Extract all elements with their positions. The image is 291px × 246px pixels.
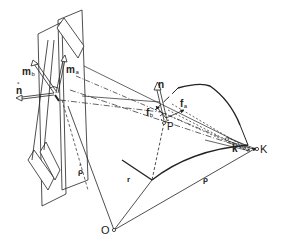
vector-rho-ring — [68, 106, 114, 230]
label-P: P — [167, 122, 174, 132]
label-n: n — [158, 80, 164, 90]
label-f-a-sub: a — [184, 103, 187, 109]
projection-rays — [60, 66, 250, 152]
label-k: k — [232, 144, 238, 154]
label-m-b-sub: b — [31, 71, 34, 77]
label-n-ring-accent: ° — [17, 81, 19, 87]
vector-r — [114, 180, 152, 230]
label-rho-ring: °ρ — [78, 168, 83, 176]
label-m-a-sub: a — [75, 69, 78, 75]
position-vectors — [68, 106, 256, 230]
label-f-b: fb — [146, 108, 153, 118]
label-f-a-base: f — [180, 98, 183, 109]
image-plane — [28, 10, 88, 206]
label-r: r — [127, 176, 130, 184]
dashed-line-P-to-surface — [152, 123, 164, 180]
label-f-b-sub: b — [150, 112, 153, 118]
label-K: K — [260, 144, 267, 155]
label-f-b-base: f — [146, 107, 149, 118]
origin-point-O — [112, 228, 115, 231]
label-m-b-base: m — [22, 66, 31, 77]
label-m-b: mb — [22, 67, 35, 77]
label-n-base: n — [158, 79, 164, 90]
point-K — [255, 147, 258, 150]
label-rho-ring-accent: ° — [79, 163, 81, 169]
label-f-a: fa — [180, 99, 187, 109]
label-m-a: ma — [66, 65, 79, 75]
geometry-drawing — [0, 0, 291, 246]
plane-bracket-top — [57, 18, 84, 58]
label-O: O — [101, 225, 110, 236]
diagram-canvas: mb ma °n n fb fa P K k O r ρ °ρ — [0, 0, 291, 246]
label-m-a-base: m — [66, 64, 75, 75]
label-rho: ρ — [203, 176, 208, 184]
label-n-ring: °n — [16, 86, 22, 96]
